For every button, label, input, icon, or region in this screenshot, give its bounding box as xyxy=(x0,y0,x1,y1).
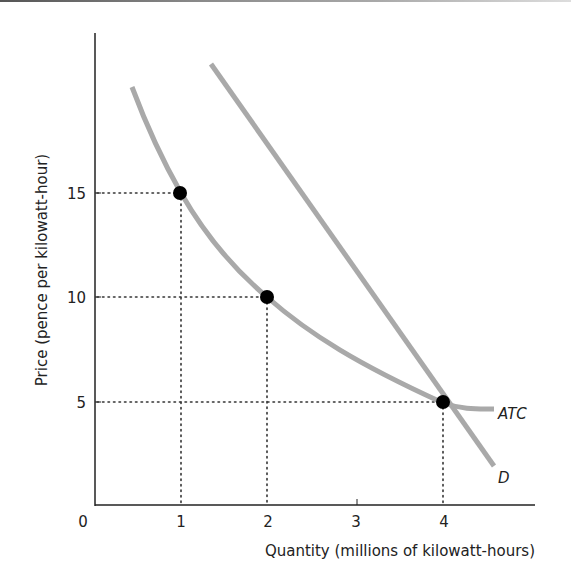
y-tick-label-10: 10 xyxy=(67,289,86,307)
y-tick-label-15: 15 xyxy=(67,185,86,203)
demand-label: D xyxy=(498,469,510,487)
point-4-5 xyxy=(436,395,450,409)
point-1-15 xyxy=(173,186,187,200)
x-tick-label-1: 1 xyxy=(176,513,186,531)
y-tick-label-5: 5 xyxy=(76,394,86,412)
x-tick-label-3: 3 xyxy=(351,513,361,531)
atc-curve xyxy=(132,87,494,409)
x-tick-label-2: 2 xyxy=(263,513,273,531)
y-axis-label: Price (pence per kilowatt-hour) xyxy=(33,154,51,386)
x-axis-label: Quantity (millions of kilowatt-hours) xyxy=(265,542,535,560)
point-2-10 xyxy=(260,290,274,304)
x-tick-label-0: 0 xyxy=(78,513,88,531)
atc-label: ATC xyxy=(497,405,527,423)
guide-lines xyxy=(97,193,443,504)
x-tick-label-4: 4 xyxy=(439,513,449,531)
chart: 15 10 5 0 1 2 3 4 Quantity (millions of … xyxy=(0,0,571,582)
